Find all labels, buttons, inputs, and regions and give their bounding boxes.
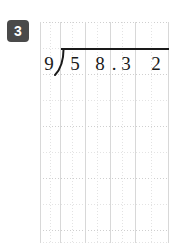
- grid-paper: 9 5 8 . 3 2: [40, 22, 169, 243]
- problem-number-badge: 3: [7, 20, 29, 42]
- grid-vline: [110, 22, 111, 243]
- grid-vline: [40, 22, 41, 243]
- grid-vline: [85, 22, 86, 243]
- grid-vline: [135, 22, 136, 243]
- grid-vline: [168, 22, 169, 243]
- grid-vline: [60, 22, 61, 243]
- grid-vertical-solid-lines: [40, 22, 169, 243]
